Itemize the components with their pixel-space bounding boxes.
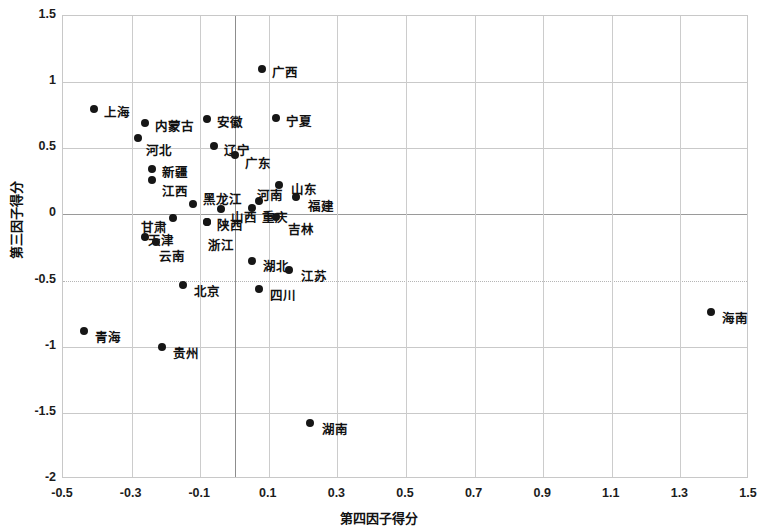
data-point-label: 湖南 xyxy=(322,419,348,438)
plot-area: 广西上海内蒙古安徽宁夏河北辽宁广东新疆江西山东福建黑龙江河南山西重庆甘肃陕西吉林… xyxy=(62,15,748,478)
data-point[interactable] xyxy=(169,214,177,222)
x-axis-tick-label: 1.3 xyxy=(671,486,688,500)
data-point[interactable] xyxy=(248,204,256,212)
data-point[interactable] xyxy=(231,151,239,159)
x-axis-tick-label: 0.9 xyxy=(533,486,550,500)
data-point[interactable] xyxy=(248,257,256,265)
data-point[interactable] xyxy=(203,218,211,226)
data-point-label: 吉林 xyxy=(288,219,314,238)
data-point-label: 河南 xyxy=(257,185,283,204)
data-point-label: 宁夏 xyxy=(286,111,312,130)
x-axis-tick-label: -0.5 xyxy=(51,486,73,500)
x-axis-tick-label: 1.5 xyxy=(739,486,756,500)
data-point[interactable] xyxy=(90,105,98,113)
data-point[interactable] xyxy=(272,114,280,122)
data-point[interactable] xyxy=(148,165,156,173)
y-axis-tick-label: 1 xyxy=(0,73,56,87)
data-point-label: 云南 xyxy=(159,246,185,265)
y-axis-tick-label: -1 xyxy=(0,338,56,352)
data-point-label: 内蒙古 xyxy=(155,116,194,135)
data-point-label: 福建 xyxy=(308,196,334,215)
gridline-vertical xyxy=(543,16,544,477)
x-axis-tick-label: 0.1 xyxy=(259,486,276,500)
gridline-horizontal xyxy=(63,281,747,282)
data-point[interactable] xyxy=(158,343,166,351)
x-axis-tick-label: 1.1 xyxy=(602,486,619,500)
data-point-label: 陕西 xyxy=(217,215,243,234)
gridline-vertical xyxy=(132,16,133,477)
data-point[interactable] xyxy=(203,115,211,123)
data-point-label: 安徽 xyxy=(217,112,243,131)
data-point-label: 广东 xyxy=(245,153,271,172)
data-point-label: 河北 xyxy=(146,140,172,159)
x-axis-tick-label: 0.5 xyxy=(396,486,413,500)
x-axis-title: 第四因子得分 xyxy=(0,508,757,527)
data-point[interactable] xyxy=(217,205,225,213)
data-point[interactable] xyxy=(141,119,149,127)
data-point-label: 海南 xyxy=(722,308,748,327)
data-point[interactable] xyxy=(210,142,218,150)
x-zero-axis-line xyxy=(235,16,236,477)
data-point[interactable] xyxy=(258,65,266,73)
data-point-label: 新疆 xyxy=(162,162,188,181)
gridline-vertical xyxy=(680,16,681,477)
data-point-label: 贵州 xyxy=(173,343,199,362)
gridline-vertical xyxy=(475,16,476,477)
data-point[interactable] xyxy=(272,213,280,221)
x-axis-tick-label: -0.1 xyxy=(188,486,210,500)
data-point-label: 上海 xyxy=(104,102,130,121)
gridline-horizontal xyxy=(63,413,747,414)
y-axis-tick-label: -1.5 xyxy=(0,404,56,418)
x-axis-tick-label: 0.7 xyxy=(465,486,482,500)
data-point[interactable] xyxy=(285,266,293,274)
data-point-label: 四川 xyxy=(270,285,296,304)
gridline-horizontal xyxy=(63,82,747,83)
data-point-label: 北京 xyxy=(194,281,220,300)
data-point-label: 青海 xyxy=(95,327,121,346)
data-point[interactable] xyxy=(179,281,187,289)
data-point[interactable] xyxy=(255,285,263,293)
y-axis-title: 第三因子得分 xyxy=(6,150,25,290)
data-point[interactable] xyxy=(306,419,314,427)
gridline-horizontal xyxy=(63,214,747,215)
x-axis-tick-label: -0.3 xyxy=(120,486,142,500)
data-point[interactable] xyxy=(134,134,142,142)
gridline-vertical xyxy=(406,16,407,477)
y-axis-tick-label: 1.5 xyxy=(0,7,56,21)
scatter-chart: 广西上海内蒙古安徽宁夏河北辽宁广东新疆江西山东福建黑龙江河南山西重庆甘肃陕西吉林… xyxy=(0,0,757,531)
gridline-vertical xyxy=(200,16,201,477)
data-point[interactable] xyxy=(189,200,197,208)
data-point-label: 广西 xyxy=(272,62,298,81)
data-point[interactable] xyxy=(152,238,160,246)
gridline-vertical xyxy=(612,16,613,477)
data-point[interactable] xyxy=(707,308,715,316)
gridline-vertical xyxy=(337,16,338,477)
data-point[interactable] xyxy=(292,193,300,201)
x-axis-tick-label: 0.3 xyxy=(328,486,345,500)
data-point-label: 江西 xyxy=(162,181,188,200)
data-point-label: 江苏 xyxy=(301,266,327,285)
y-axis-tick-label: -2 xyxy=(0,470,56,484)
gridline-vertical xyxy=(269,16,270,477)
data-point[interactable] xyxy=(148,176,156,184)
data-point[interactable] xyxy=(80,327,88,335)
data-point-label: 浙江 xyxy=(208,235,234,254)
